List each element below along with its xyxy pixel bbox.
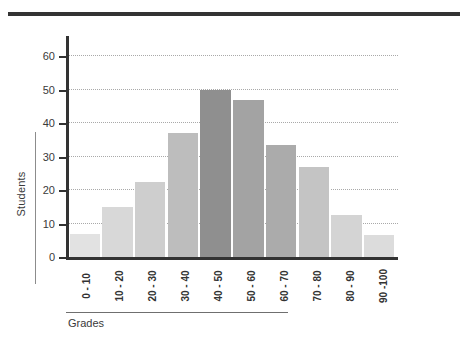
bar-group — [69, 36, 396, 257]
y-tick-mark — [59, 56, 67, 58]
x-tick-label: 90 -100 — [377, 269, 388, 303]
x-tick-label: 30 - 40 — [179, 270, 190, 301]
bar — [200, 90, 231, 257]
y-tick-mark — [59, 257, 67, 259]
x-tick-label-group: 0 - 1010 - 2020 - 3030 - 4040 - 5050 - 6… — [69, 264, 399, 310]
chart-plot-area: 0102030405060 — [66, 36, 396, 260]
y-tick-mark — [59, 224, 67, 226]
x-axis-title: Grades — [68, 317, 104, 329]
y-tick-label: 10 — [43, 218, 55, 230]
x-tick-slot: 10 - 20 — [102, 264, 135, 310]
x-tick-slot: 80 - 90 — [333, 264, 366, 310]
y-tick-label: 50 — [43, 84, 55, 96]
bar — [266, 145, 297, 257]
x-tick-slot: 90 -100 — [366, 264, 399, 310]
y-tick-label: 20 — [43, 184, 55, 196]
x-tick-slot: 70 - 80 — [300, 264, 333, 310]
y-tick-label: 40 — [43, 117, 55, 129]
bar-slot — [69, 36, 102, 257]
y-tick-label: 0 — [49, 251, 55, 263]
y-axis-title: Students — [15, 149, 27, 239]
bar — [135, 182, 166, 257]
bar-slot — [233, 36, 266, 257]
y-tick-mark — [59, 90, 67, 92]
bar — [233, 100, 264, 257]
y-tick-mark — [59, 157, 67, 159]
bar — [331, 215, 362, 257]
x-tick-label: 20 - 30 — [146, 270, 157, 301]
bar-slot — [363, 36, 396, 257]
x-tick-slot: 60 - 70 — [267, 264, 300, 310]
x-tick-slot: 30 - 40 — [168, 264, 201, 310]
x-tick-label: 10 - 20 — [113, 270, 124, 301]
x-axis-line — [66, 257, 398, 260]
top-divider-rule — [8, 12, 460, 16]
x-tick-label: 70 - 80 — [311, 270, 322, 301]
x-tick-slot: 0 - 10 — [69, 264, 102, 310]
bar-slot — [200, 36, 233, 257]
x-tick-slot: 50 - 60 — [234, 264, 267, 310]
bar — [168, 133, 199, 257]
bar-slot — [167, 36, 200, 257]
x-tick-label: 60 - 70 — [278, 270, 289, 301]
x-tick-label: 40 - 50 — [212, 270, 223, 301]
bar — [70, 234, 101, 257]
x-axis-title-rule — [66, 312, 288, 313]
bar-slot — [298, 36, 331, 257]
bar — [364, 235, 395, 257]
y-tick-mark — [59, 190, 67, 192]
x-tick-label: 0 - 10 — [80, 273, 91, 299]
bar-slot — [331, 36, 364, 257]
y-tick-mark — [59, 123, 67, 125]
y-tick-label: 60 — [43, 50, 55, 62]
x-tick-label: 50 - 60 — [245, 270, 256, 301]
bar-slot — [265, 36, 298, 257]
x-tick-slot: 40 - 50 — [201, 264, 234, 310]
bar — [102, 207, 133, 257]
bar-slot — [102, 36, 135, 257]
y-tick-label: 30 — [43, 151, 55, 163]
y-axis-title-block: Students — [4, 132, 38, 288]
x-tick-label: 80 - 90 — [344, 270, 355, 301]
x-tick-slot: 20 - 30 — [135, 264, 168, 310]
bar-slot — [134, 36, 167, 257]
bar — [299, 167, 330, 257]
y-axis-title-rule — [35, 132, 36, 284]
